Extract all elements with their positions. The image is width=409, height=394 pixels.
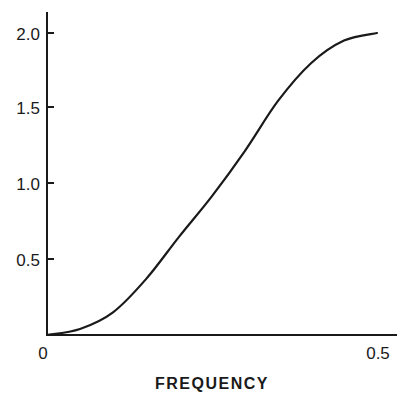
x-axis-title: FREQUENCY — [155, 375, 269, 392]
y-tick-label-0.5: 0.5 — [16, 251, 40, 270]
data-line — [47, 33, 377, 335]
x-tick-label-0: 0 — [38, 344, 47, 363]
chart-canvas: 2.0 1.5 1.0 0.5 0 0.5 FREQUENCY — [0, 0, 409, 394]
y-tick-label-2.0: 2.0 — [16, 25, 40, 44]
x-tick-label-0.5: 0.5 — [366, 344, 390, 363]
y-tick-label-1.5: 1.5 — [16, 99, 40, 118]
y-tick-label-1.0: 1.0 — [16, 175, 40, 194]
